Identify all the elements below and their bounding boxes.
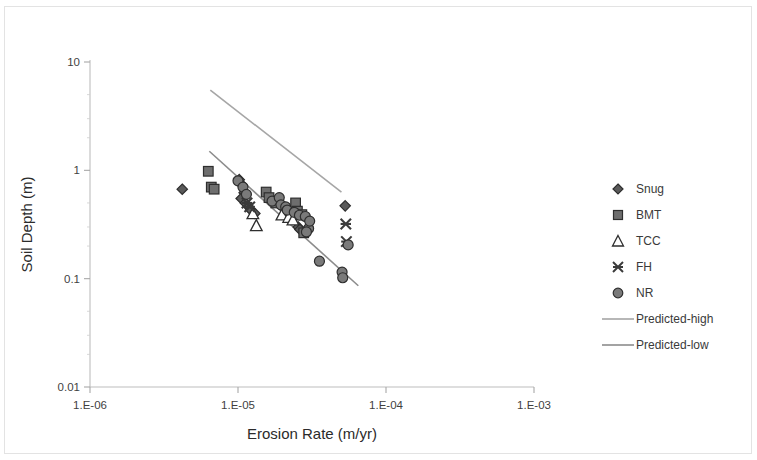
point-nr-12: [305, 216, 315, 226]
legend-item-fh[interactable]: FH: [600, 254, 750, 280]
point-nr-14: [314, 256, 324, 266]
legend-label: Predicted-low: [636, 338, 709, 352]
x-tick-label-1: 1.E-05: [221, 399, 255, 411]
point-snug-13: [340, 201, 350, 211]
square-icon: [600, 207, 636, 223]
point-tcc-1: [251, 220, 263, 231]
x-axis-title: Erosion Rate (m/yr): [247, 425, 377, 442]
point-fh-2: [341, 219, 351, 229]
legend-label: Snug: [636, 182, 664, 196]
x-tick-label-0: 1.E-06: [73, 399, 107, 411]
point-bmt-0: [204, 166, 214, 176]
legend-label: BMT: [636, 208, 661, 222]
legend-label: Predicted-high: [636, 312, 713, 326]
legend-item-tcc[interactable]: TCC: [600, 228, 750, 254]
y-tick-label-1: 1: [74, 164, 80, 176]
chart-page: 1010.10.011.E-061.E-051.E-041.E-03Erosio…: [0, 0, 757, 460]
circle-icon: [600, 285, 636, 301]
triangle-icon: [600, 233, 636, 249]
legend-item-predicted-low[interactable]: Predicted-low: [600, 332, 750, 358]
line-light-icon: [600, 311, 636, 327]
point-nr-17: [338, 273, 348, 283]
legend-item-snug[interactable]: Snug: [600, 176, 750, 202]
chart-legend: SnugBMTTCCFHNRPredicted-highPredicted-lo…: [600, 176, 750, 358]
x-icon: [600, 259, 636, 275]
point-bmt-2: [209, 184, 219, 194]
legend-label: TCC: [636, 234, 661, 248]
point-nr-15: [343, 240, 353, 250]
y-axis-title: Soil Depth (m): [18, 177, 35, 273]
legend-label: NR: [636, 286, 653, 300]
legend-item-nr[interactable]: NR: [600, 280, 750, 306]
x-tick-label-2: 1.E-04: [369, 399, 403, 411]
point-snug-0: [177, 184, 187, 194]
legend-label: FH: [636, 260, 652, 274]
diamond-icon: [600, 181, 636, 197]
line-dark-icon: [600, 337, 636, 353]
legend-item-bmt[interactable]: BMT: [600, 202, 750, 228]
y-tick-label-0: 10: [67, 56, 80, 68]
point-nr-2: [241, 189, 251, 199]
y-tick-label-3: 0.01: [58, 381, 80, 393]
y-tick-label-2: 0.1: [64, 273, 80, 285]
trendline-predicted-high: [210, 90, 341, 192]
x-tick-label-3: 1.E-03: [517, 399, 551, 411]
point-nr-13: [301, 227, 311, 237]
legend-item-predicted-high[interactable]: Predicted-high: [600, 306, 750, 332]
